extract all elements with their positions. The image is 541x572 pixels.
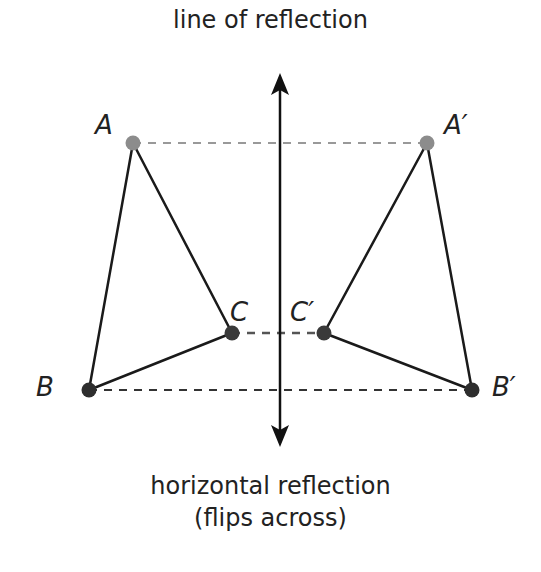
point-b-prime xyxy=(465,383,480,398)
point-c-prime xyxy=(317,326,332,341)
caption-line-2: (flips across) xyxy=(0,502,541,534)
label-c-prime: C′ xyxy=(290,297,314,327)
label-b: B xyxy=(36,372,54,402)
point-c xyxy=(225,326,240,341)
caption-line-1: horizontal reflection xyxy=(0,470,541,502)
triangle-reflected xyxy=(324,143,472,390)
point-b xyxy=(82,383,97,398)
triangle-original xyxy=(89,143,232,390)
label-b-prime: B′ xyxy=(492,372,516,402)
label-a: A xyxy=(95,110,113,140)
label-c: C xyxy=(230,297,248,327)
point-a xyxy=(126,136,141,151)
point-a-prime xyxy=(420,136,435,151)
caption: horizontal reflection (flips across) xyxy=(0,470,541,534)
label-a-prime: A′ xyxy=(444,110,468,140)
